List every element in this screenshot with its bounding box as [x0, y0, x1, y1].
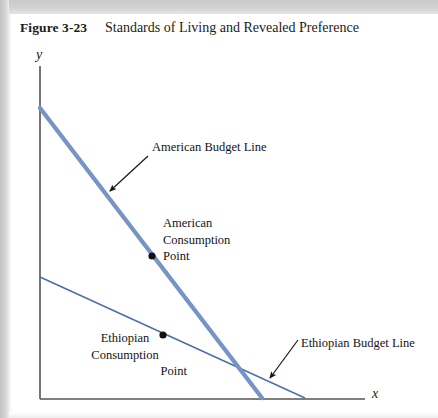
american-consumption-point-label: American Consumption Point: [163, 215, 230, 265]
ethiopian-budget-line-label: Ethiopian Budget Line: [301, 335, 415, 352]
ethiopian-consumption-point-label: Ethiopian Consumption Point: [57, 330, 193, 380]
american-consumption-line-3: Point: [163, 248, 230, 265]
ethiopian-consumption-line-3: Point: [57, 363, 193, 380]
american-consumption-line-1: American: [163, 215, 230, 232]
american-budget-line-label: American Budget Line: [152, 139, 267, 156]
figure-page: Figure 3-23 Standards of Living and Reve…: [0, 0, 438, 418]
y-axis-label: y: [36, 47, 42, 63]
american-consumption-point-marker: [148, 252, 155, 259]
ethiopian-consumption-line-1: Ethiopian: [57, 330, 193, 347]
ethiopian-consumption-line-2: Consumption: [57, 347, 193, 364]
ethiopian-budget-line-callout-arrow: [270, 340, 298, 378]
x-axis-label: x: [372, 386, 378, 402]
american-budget-line-callout-arrow: [110, 156, 148, 191]
american-consumption-line-2: Consumption: [163, 232, 230, 249]
